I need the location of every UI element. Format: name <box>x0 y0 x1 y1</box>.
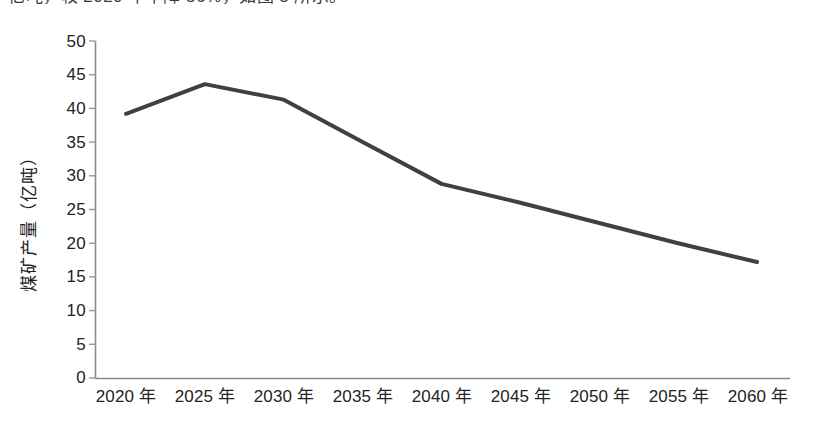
caption-text: 亿吨，较 2020 年下降 56%，如图 5 所示。 <box>8 0 347 6</box>
x-tick-label: 2060 年 <box>708 388 808 406</box>
y-tick-marks <box>89 41 96 378</box>
caption-strip: 亿吨，较 2020 年下降 56%，如图 5 所示。 <box>0 0 814 14</box>
chart-figure: 煤矿产量（亿吨） 50 45 40 35 30 25 20 15 10 5 0 <box>0 14 814 440</box>
plot-area <box>0 14 814 440</box>
data-series-line <box>126 84 757 262</box>
